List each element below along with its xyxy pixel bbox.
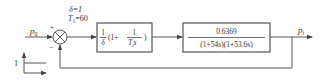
svg-text:0.6369: 0.6369 [216, 27, 237, 36]
step-input-icon [24, 53, 46, 73]
step-amplitude-label: 1 [14, 59, 18, 68]
input-label: p0 [29, 26, 38, 37]
plus-sign: + [50, 24, 54, 32]
t1-parameter: T1=60 [68, 14, 88, 24]
svg-text:1: 1 [101, 28, 105, 37]
block-diagram: p0 + − δ=1 T1=60 1 δ (1+ 1 Tis ) 0.6369 … [0, 0, 323, 81]
minus-sign: − [49, 43, 54, 52]
delta-parameter: δ=1 [69, 5, 82, 14]
output-label: pi [297, 25, 305, 36]
svg-text:δ: δ [101, 38, 105, 47]
svg-text:1: 1 [132, 28, 136, 37]
summing-junction [53, 30, 67, 44]
svg-text:(1+: (1+ [108, 33, 118, 42]
svg-text:(1+54s)(1+53.6s): (1+54s)(1+53.6s) [200, 40, 253, 49]
